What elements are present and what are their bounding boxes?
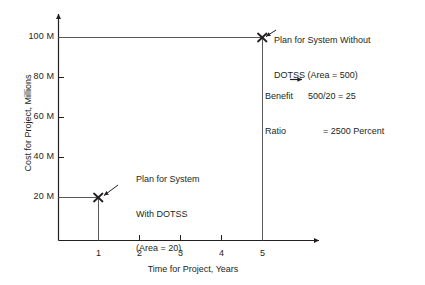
chart-figure: 100 M 80 M 60 M 40 M 20 M 1 2 3 4 5 Cost… xyxy=(0,0,425,285)
annotation-without-dotss-line1: Plan for System Without xyxy=(274,35,371,47)
benefit-ratio-calc-line2: = 2500 Percent xyxy=(308,126,384,138)
x-tick-label-5: 5 xyxy=(253,248,273,260)
annotation-with-dotss-line2: With DOTSS xyxy=(136,209,200,221)
benefit-ratio-calculation: 500/20 = 25 = 2500 Percent xyxy=(308,68,384,160)
y-axis-title: Cost for Project, Millions xyxy=(23,48,33,198)
annotation-with-dotss-line3: (Area = 20) xyxy=(136,243,200,255)
x-tick-label-4: 4 xyxy=(212,248,232,260)
y-axis-ticks xyxy=(59,38,65,198)
leader-line-with-dotss xyxy=(104,185,118,196)
benefit-ratio-label-line2: Ratio xyxy=(265,126,293,138)
benefit-ratio-label-line1: Benefit xyxy=(265,91,293,103)
benefit-ratio-calc-line1: 500/20 = 25 xyxy=(308,91,384,103)
guide-lines-with-dotss xyxy=(59,198,99,241)
annotation-with-dotss: Plan for System With DOTSS (Area = 20) xyxy=(136,151,200,278)
annotation-with-dotss-line1: Plan for System xyxy=(136,174,200,186)
benefit-ratio-label: Benefit Ratio xyxy=(265,68,293,160)
y-tick-label-100m: 100 M xyxy=(18,31,54,43)
x-tick-label-1: 1 xyxy=(89,248,109,260)
